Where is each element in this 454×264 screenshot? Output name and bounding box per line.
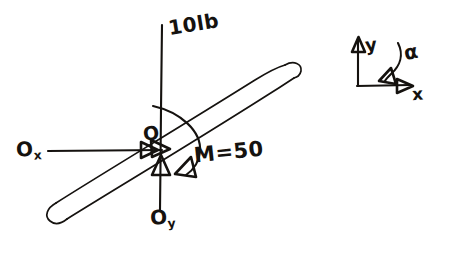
applied-load-arrow bbox=[161, 25, 162, 152]
reaction-x-label: Ox bbox=[15, 138, 41, 160]
reaction-y-label-base: O bbox=[149, 205, 167, 230]
diagram-canvas: 10lb Ox Oy O M=50 y x α bbox=[0, 0, 454, 264]
reaction-y-label: Oy bbox=[149, 206, 175, 227]
sketch-layer bbox=[0, 0, 454, 264]
reaction-y-label-subscript: y bbox=[167, 216, 176, 231]
reaction-x-label-base: O bbox=[15, 137, 34, 162]
reaction-y-arrow bbox=[152, 155, 170, 210]
pivot-point-label: O bbox=[142, 123, 160, 144]
reaction-x-label-subscript: x bbox=[33, 147, 42, 163]
axis-x-label: x bbox=[411, 86, 423, 104]
axis-y-label: y bbox=[364, 35, 378, 54]
